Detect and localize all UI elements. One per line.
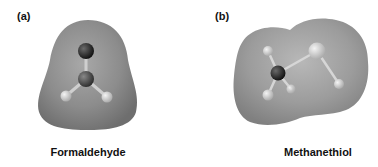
sulfur-atom bbox=[309, 43, 326, 60]
methanethiol-surface bbox=[234, 18, 369, 125]
hydrogen-atom bbox=[334, 79, 344, 89]
hydrogen-atom bbox=[263, 46, 273, 56]
hydrogen-atom bbox=[102, 92, 113, 103]
carbon-atom bbox=[271, 66, 286, 81]
electrostatic-potential-maps bbox=[0, 0, 378, 167]
carbon-atom bbox=[78, 71, 94, 87]
hydrogen-atom bbox=[287, 85, 296, 94]
oxygen-atom bbox=[78, 43, 94, 59]
formaldehyde-caption: Formaldehyde bbox=[18, 146, 158, 158]
hydrogen-atom bbox=[61, 91, 72, 102]
methanethiol-caption: Methanethiol bbox=[248, 146, 378, 158]
hydrogen-atom bbox=[263, 90, 274, 101]
